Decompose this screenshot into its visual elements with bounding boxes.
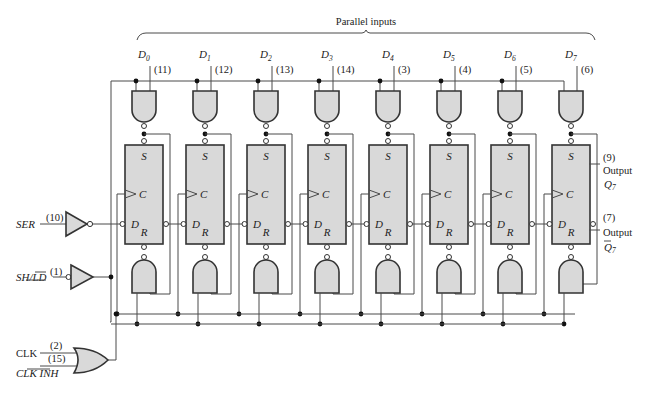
set-label: S: [202, 150, 208, 162]
shld-pin: (1): [50, 266, 63, 278]
set-label: S: [507, 150, 513, 162]
data-label: D: [191, 218, 200, 230]
ser-inverter: [66, 212, 87, 236]
parallel-inputs-brace: [137, 30, 595, 40]
q7-symbol: Q7: [604, 178, 616, 192]
data-input-label: D6: [503, 48, 516, 63]
preset-nand-gate: [376, 91, 400, 122]
shift-register-diagram: Parallel inputs D0(11)SCDRD1(12)SCDRD2(1…: [0, 0, 648, 394]
reset-label: R: [384, 226, 392, 238]
q7bar-pin: (7): [603, 212, 616, 224]
set-label: S: [385, 150, 391, 162]
clear-nand-gate: [437, 260, 461, 293]
clear-nand-gate: [559, 260, 583, 293]
clk-pin: (2): [50, 340, 63, 352]
data-input-pin: (14): [337, 64, 355, 76]
set-label: S: [141, 150, 147, 162]
stage-2: D2(13)SCDR: [229, 48, 294, 326]
data-label: D: [557, 218, 566, 230]
clear-nand-gate: [132, 260, 156, 293]
stage-3: D3(14)SCDR: [290, 48, 355, 326]
data-label: D: [252, 218, 261, 230]
data-input-label: D3: [320, 48, 333, 63]
q7bar-output-label: Output: [603, 227, 632, 238]
data-input-label: D1: [198, 48, 211, 63]
preset-nand-gate: [498, 91, 522, 122]
reset-label: R: [445, 226, 453, 238]
clock-label: C: [261, 188, 269, 200]
set-label: S: [446, 150, 452, 162]
preset-nand-gate: [315, 91, 339, 122]
data-input-label: D4: [381, 48, 394, 63]
shld-buffer: [71, 265, 93, 289]
data-input-label: D5: [442, 48, 455, 63]
clear-nand-gate: [498, 260, 522, 293]
data-label: D: [313, 218, 322, 230]
q7bar-symbol: Q7: [604, 241, 616, 255]
preset-nand-gate: [437, 91, 461, 122]
ser-pin: (10): [46, 212, 64, 224]
clock-label: C: [383, 188, 391, 200]
data-label: D: [130, 218, 139, 230]
stage-4: D4(3)SCDR: [351, 48, 414, 326]
data-input-label: D2: [259, 48, 272, 63]
stage-6: D6(5)SCDR: [473, 48, 536, 326]
stage-1: D1(12)SCDR: [168, 48, 233, 326]
clk-or-gate: [74, 348, 108, 373]
stage-0: D0(11)SCDR: [115, 48, 172, 326]
reset-label: R: [567, 226, 575, 238]
clock-label: C: [139, 188, 147, 200]
data-input-pin: (3): [398, 64, 411, 76]
stage-5: D5(4)SCDR: [412, 48, 475, 326]
clear-nand-gate: [193, 260, 217, 293]
reset-label: R: [201, 226, 209, 238]
data-input-label: D0: [137, 48, 150, 63]
clock-label: C: [566, 188, 574, 200]
parallel-inputs-label: Parallel inputs: [336, 16, 396, 27]
clkinh-pin: (15): [48, 353, 66, 365]
reset-label: R: [323, 226, 331, 238]
data-label: D: [496, 218, 505, 230]
clock-label: C: [200, 188, 208, 200]
set-label: S: [263, 150, 269, 162]
reset-label: R: [506, 226, 514, 238]
clear-nand-gate: [254, 260, 278, 293]
preset-nand-gate: [132, 91, 156, 122]
set-label: S: [568, 150, 574, 162]
data-input-pin: (4): [459, 64, 472, 76]
preset-nand-gate: [193, 91, 217, 122]
ser-label: SER: [16, 218, 35, 230]
stage-7: D7(6)SCDR: [534, 48, 597, 326]
data-label: D: [374, 218, 383, 230]
q7-output-label: Output: [603, 165, 632, 176]
data-input-pin: (6): [581, 64, 594, 76]
clk-label: CLK: [16, 348, 37, 359]
clock-label: C: [444, 188, 452, 200]
clear-nand-gate: [315, 260, 339, 293]
clock-label: C: [322, 188, 330, 200]
reset-label: R: [140, 226, 148, 238]
preset-nand-gate: [254, 91, 278, 122]
set-label: S: [324, 150, 330, 162]
reset-label: R: [262, 226, 270, 238]
preset-nand-gate: [559, 91, 583, 122]
data-input-pin: (13): [276, 64, 294, 76]
data-input-label: D7: [564, 48, 577, 63]
clock-label: C: [505, 188, 513, 200]
data-input-pin: (11): [154, 64, 172, 76]
data-input-pin: (5): [520, 64, 533, 76]
shld-label: SH/LD: [16, 271, 47, 283]
data-input-pin: (12): [215, 64, 233, 76]
clear-nand-gate: [376, 260, 400, 293]
q7-pin: (9): [603, 152, 616, 164]
data-label: D: [435, 218, 444, 230]
